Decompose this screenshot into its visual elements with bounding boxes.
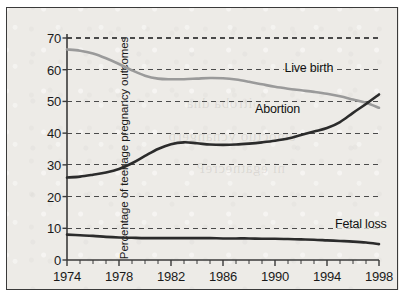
- x-tick-label: 1978: [105, 269, 133, 284]
- y-tick-label: 30: [47, 157, 61, 172]
- y-tick-label: 50: [47, 94, 61, 109]
- x-tick-label: 1986: [209, 269, 237, 284]
- y-tick-label: 0: [54, 253, 61, 268]
- y-tick-label: 60: [47, 62, 61, 77]
- page-margin-right: [399, 0, 404, 296]
- y-tick-label: 20: [47, 189, 61, 204]
- plot-area: 010203040506070 197419781982198619901994…: [67, 38, 379, 260]
- series-label-abortion: Abortion: [254, 102, 301, 116]
- series-line-live-birth: [67, 49, 379, 107]
- x-tick-label: 1998: [365, 269, 393, 284]
- x-tick-label: 1974: [53, 269, 81, 284]
- chart-figure: noitroba dnaemoctuo ycnangerpni egatnecr…: [0, 0, 404, 296]
- x-tick-label: 1990: [261, 269, 289, 284]
- y-tick-label: 70: [47, 31, 61, 46]
- y-tick-label: 40: [47, 126, 61, 141]
- y-tick-label: 10: [47, 221, 61, 236]
- series-line-fetal-loss: [67, 235, 379, 245]
- page-margin-top: [0, 0, 404, 7]
- x-tick-label: 1982: [157, 269, 185, 284]
- x-tick-label: 1994: [313, 269, 341, 284]
- page-margin-bottom: [0, 290, 404, 296]
- series-label-live-birth: Live birth: [283, 61, 334, 75]
- page-margin-left: [0, 0, 6, 296]
- series-label-fetal-loss: Fetal loss: [334, 217, 388, 231]
